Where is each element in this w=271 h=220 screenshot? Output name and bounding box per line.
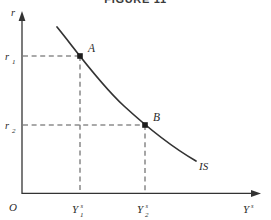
x-axis-label: Y s	[243, 202, 254, 215]
x-tick-y1-base: Y	[72, 203, 80, 215]
point-label-b: B	[153, 111, 160, 123]
x-tick-label-y2: Y s 2	[137, 202, 149, 219]
x-tick-y1-sub: 1	[80, 211, 84, 219]
y-tick-label-r2: r 2	[5, 120, 16, 135]
y-tick-r2-sub: 2	[12, 127, 16, 135]
x-tick-y2-sup: s	[146, 202, 149, 209]
x-tick-y2-sub: 2	[145, 211, 149, 219]
y-tick-r2-base: r	[5, 120, 10, 131]
x-tick-y2-base: Y	[137, 203, 145, 215]
point-marker-b	[142, 122, 148, 128]
point-marker-a	[77, 53, 83, 59]
y-tick-r1-base: r	[5, 51, 10, 62]
point-label-a: A	[87, 42, 96, 54]
curve-label-is: IS	[198, 160, 209, 172]
x-axis-label-sup: s	[251, 202, 254, 209]
y-axis-label: r	[11, 7, 16, 18]
y-tick-label-r1: r 1	[5, 51, 16, 66]
origin-label: O	[9, 201, 17, 213]
x-axis-label-base: Y	[243, 203, 251, 215]
is-curve	[57, 27, 196, 161]
figure-container: FIGURE 11 A B IS r	[0, 0, 271, 220]
y-axis	[19, 11, 26, 194]
x-tick-y1-sup: s	[81, 202, 84, 209]
is-curve-plot: A B IS r O Y s r 1 r 2 Y s 1	[0, 0, 271, 220]
x-axis	[22, 190, 261, 197]
x-tick-label-y1: Y s 1	[72, 202, 84, 219]
y-tick-r1-sub: 1	[12, 58, 16, 66]
